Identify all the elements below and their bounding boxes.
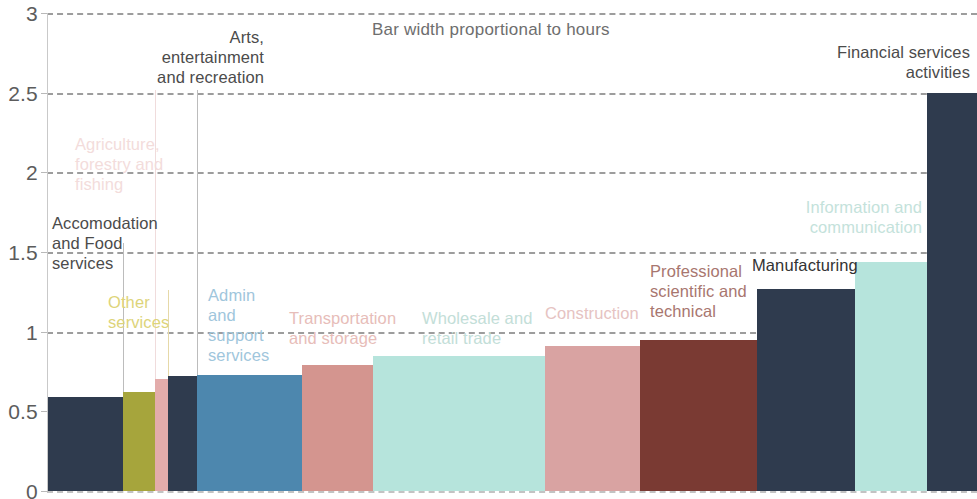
bar xyxy=(197,375,302,491)
bar-label: Other services xyxy=(108,292,178,332)
bar-label: Transportation and storage xyxy=(289,308,394,348)
bar xyxy=(545,346,640,491)
bar-label: Admin and support services xyxy=(208,285,298,366)
bar xyxy=(48,397,123,491)
bar-label: Information and communication xyxy=(800,197,922,237)
bar-label: Manufacturing xyxy=(752,255,862,275)
bar-chart: 00.511.522.53 Accomodation and Food serv… xyxy=(0,0,977,499)
bar xyxy=(123,392,155,491)
bar xyxy=(155,379,168,491)
bar-label: Construction xyxy=(545,303,649,323)
bar xyxy=(640,340,757,491)
bar xyxy=(757,289,855,491)
bar-label: Agriculture, forestry and fishing xyxy=(75,134,175,194)
bar-label: Accomodation and Food services xyxy=(52,213,172,273)
bar-label: Arts, entertainment and recreation xyxy=(152,27,264,87)
chart-title: Bar width proportional to hours xyxy=(372,20,610,40)
bar-label: Financial services activities xyxy=(836,42,970,82)
bar xyxy=(168,376,197,491)
bar xyxy=(855,262,927,491)
bar xyxy=(302,365,373,491)
bar xyxy=(373,356,545,491)
bar xyxy=(927,93,977,491)
bar-label: Wholesale and retail trade xyxy=(422,308,542,348)
bar-label: Professional scientific and technical xyxy=(650,261,750,321)
